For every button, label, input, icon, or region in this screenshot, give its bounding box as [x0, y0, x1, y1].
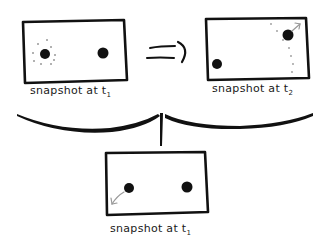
diagram-canvas	[0, 0, 330, 249]
panel-top-right	[206, 18, 309, 80]
motion-arrow-down-left	[111, 192, 124, 204]
label-text: snapshot at t	[110, 222, 186, 235]
label-subscript: 1	[186, 229, 191, 237]
dot-right	[98, 48, 109, 59]
dot-right	[182, 182, 193, 193]
label-snapshot-t1-top: snapshot at t1	[30, 84, 111, 99]
label-snapshot-t1-bottom: snapshot at t1	[110, 222, 191, 237]
dot-left	[40, 49, 50, 59]
dot-bottom-left	[212, 59, 222, 69]
panel-bottom	[106, 152, 208, 215]
label-text: snapshot at t	[30, 84, 106, 97]
dot-left	[124, 183, 134, 193]
label-snapshot-t2: snapshot at t2	[212, 82, 293, 97]
curly-brace	[17, 113, 313, 146]
label-subscript: 2	[288, 89, 293, 97]
label-subscript: 1	[106, 91, 111, 99]
implies-arrow	[147, 42, 185, 62]
motion-arrow-up-right	[292, 23, 300, 31]
panel-top-left	[23, 20, 127, 83]
label-text: snapshot at t	[212, 82, 288, 95]
